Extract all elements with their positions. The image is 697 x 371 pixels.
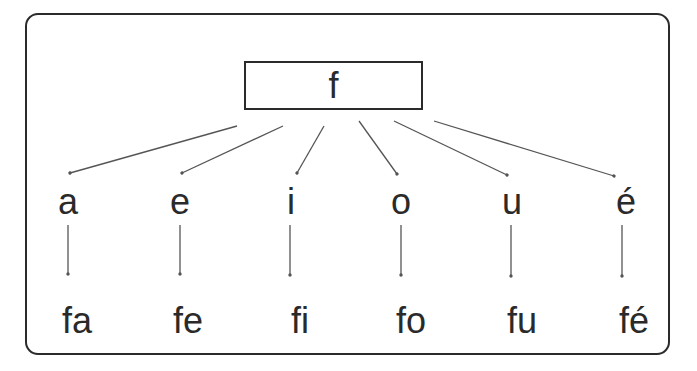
syllable-fu: fu [507,303,537,339]
syllable-fi: fi [291,303,309,339]
syllable-fe: fe [173,303,203,339]
root-letter: f [328,68,338,104]
vowel-e-acute: é [616,184,636,220]
vowel-o: o [391,184,411,220]
vowel-u: u [502,184,522,220]
syllable-fo: fo [396,303,426,339]
vowel-e: e [170,184,190,220]
vowel-a: a [58,184,78,220]
syllable-fa: fa [62,303,92,339]
syllable-fe-acute: fé [619,303,649,339]
vowel-i: i [287,184,295,220]
root-letter-box: f [244,61,423,110]
